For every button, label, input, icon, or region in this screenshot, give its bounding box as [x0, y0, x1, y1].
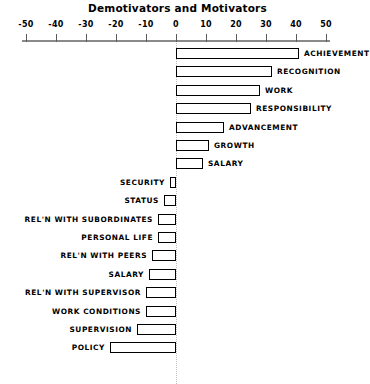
bar-row: RECOGNITION [0, 63, 355, 81]
axis-tick [206, 34, 207, 42]
bar-label: SALARY [109, 269, 144, 280]
axis-tick [236, 34, 237, 42]
bar [176, 85, 260, 96]
bar-label: WORK CONDITIONS [52, 306, 141, 317]
chart-title: Demotivators and Motivators [0, 2, 355, 14]
bar [176, 158, 203, 169]
axis-tick-label: 10 [200, 20, 212, 29]
bar-label: POLICY [72, 342, 105, 353]
bar-row: GROWTH [0, 137, 355, 155]
bar-row: WORK [0, 82, 355, 100]
axis-tick [56, 34, 57, 42]
axis-tick-label: -30 [78, 20, 93, 29]
bar-label: RECOGNITION [277, 66, 341, 77]
bar-row: POLICY [0, 339, 355, 357]
bar-label: RESPONSIBILITY [256, 103, 332, 114]
axis-tick [116, 34, 117, 42]
bar-label: GROWTH [214, 140, 255, 151]
bar [164, 195, 176, 206]
bar-row: STATUS [0, 192, 355, 210]
bar-row: ACHIEVEMENT [0, 45, 355, 63]
bar-label: ADVANCEMENT [229, 122, 298, 133]
bar-row: REL'N WITH SUBORDINATES [0, 211, 355, 229]
bar-label: REL'N WITH PEERS [61, 250, 148, 261]
axis-tick-label: -40 [48, 20, 63, 29]
axis-tick [326, 34, 327, 42]
axis-tick-label: 20 [230, 20, 242, 29]
bar-row: SUPERVISION [0, 321, 355, 339]
bar-label: SUPERVISION [69, 324, 132, 335]
bar [176, 122, 224, 133]
bar-row: REL'N WITH SUPERVISOR [0, 284, 355, 302]
bar [149, 269, 176, 280]
axis-tick [266, 34, 267, 42]
bar [137, 324, 176, 335]
bar-row: ADVANCEMENT [0, 119, 355, 137]
axis-tick-label: -20 [108, 20, 123, 29]
x-axis: -50-40-30-20-1001020304050 [0, 40, 355, 41]
axis-tick-label: 50 [320, 20, 332, 29]
bar-row: WORK CONDITIONS [0, 303, 355, 321]
axis-tick [296, 34, 297, 42]
axis-tick-label: -10 [138, 20, 153, 29]
bar [158, 214, 176, 225]
bar-label: REL'N WITH SUBORDINATES [25, 214, 153, 225]
bar-row: SECURITY [0, 174, 355, 192]
bar [176, 48, 299, 59]
bar-label: ACHIEVEMENT [304, 48, 370, 59]
bar-row: PERSONAL LIFE [0, 229, 355, 247]
bar-label: SALARY [208, 158, 243, 169]
bar [176, 66, 272, 77]
bar-label: REL'N WITH SUPERVISOR [25, 287, 141, 298]
bar-row: RESPONSIBILITY [0, 100, 355, 118]
axis-tick-label: 30 [260, 20, 272, 29]
axis-tick-label: 0 [173, 20, 179, 29]
bar [146, 287, 176, 298]
bar [110, 342, 176, 353]
bar-row: SALARY [0, 266, 355, 284]
bar [176, 140, 209, 151]
bar-label: STATUS [124, 195, 159, 206]
bar [176, 103, 251, 114]
bar [152, 250, 176, 261]
axis-tick-label: 40 [290, 20, 302, 29]
axis-tick [86, 34, 87, 42]
axis-tick [146, 34, 147, 42]
bar [146, 306, 176, 317]
axis-tick-label: -50 [18, 20, 33, 29]
bar-label: SECURITY [120, 177, 165, 188]
bar-label: WORK [265, 85, 293, 96]
axis-tick [26, 34, 27, 42]
bar [158, 232, 176, 243]
bar [170, 177, 176, 188]
bar-label: PERSONAL LIFE [81, 232, 153, 243]
bar-row: SALARY [0, 155, 355, 173]
bar-row: REL'N WITH PEERS [0, 247, 355, 265]
axis-tick [176, 34, 177, 42]
